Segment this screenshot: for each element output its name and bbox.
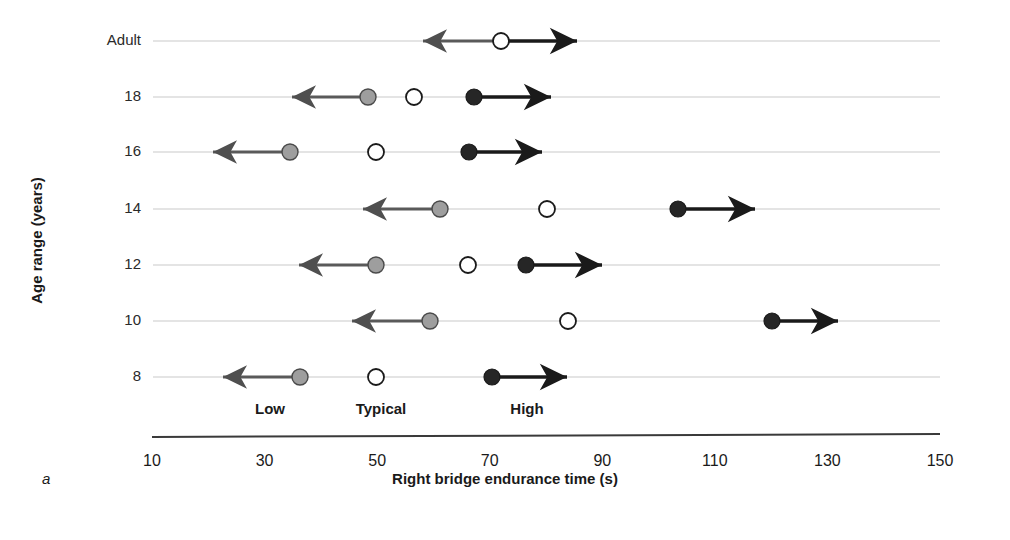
x-axis-line (152, 434, 940, 437)
y-axis-label-8: 8 (0, 367, 141, 384)
panel-letter: a (42, 470, 50, 487)
data-point-typical (368, 369, 384, 385)
figure-panel-a: Age range (years) Adult18161412108 10305… (0, 0, 1010, 540)
data-point-low (360, 89, 376, 105)
data-point-high (670, 201, 686, 217)
data-point-low (282, 144, 298, 160)
legend-label-high: High (467, 400, 587, 417)
y-axis-label-10: 10 (0, 311, 141, 328)
data-point-typical (539, 201, 555, 217)
data-point-low (432, 201, 448, 217)
y-axis-label-14: 14 (0, 199, 141, 216)
x-tick-90: 90 (562, 452, 642, 470)
data-point-typical (368, 144, 384, 160)
x-axis-title: Right bridge endurance time (s) (0, 470, 1010, 487)
y-axis-label-18: 18 (0, 87, 141, 104)
data-point-low (422, 313, 438, 329)
data-point-typical (406, 89, 422, 105)
data-point-high (461, 144, 477, 160)
x-tick-10: 10 (112, 452, 192, 470)
x-tick-70: 70 (450, 452, 530, 470)
data-point-high (484, 369, 500, 385)
x-tick-110: 110 (675, 452, 755, 470)
legend-label-low: Low (210, 400, 330, 417)
data-point-high (466, 89, 482, 105)
data-point-low (292, 369, 308, 385)
y-axis-label-16: 16 (0, 142, 141, 159)
data-point-low (368, 257, 384, 273)
y-axis-label-adult: Adult (0, 31, 141, 48)
data-point-typical (493, 33, 509, 49)
data-point-typical (460, 257, 476, 273)
legend-label-typical: Typical (321, 400, 441, 417)
data-point-typical (560, 313, 576, 329)
x-tick-150: 150 (900, 452, 980, 470)
y-axis-label-12: 12 (0, 255, 141, 272)
data-point-high (764, 313, 780, 329)
data-point-high (518, 257, 534, 273)
x-tick-130: 130 (787, 452, 867, 470)
x-tick-30: 30 (225, 452, 305, 470)
x-tick-50: 50 (337, 452, 417, 470)
x-axis-line (152, 434, 940, 437)
